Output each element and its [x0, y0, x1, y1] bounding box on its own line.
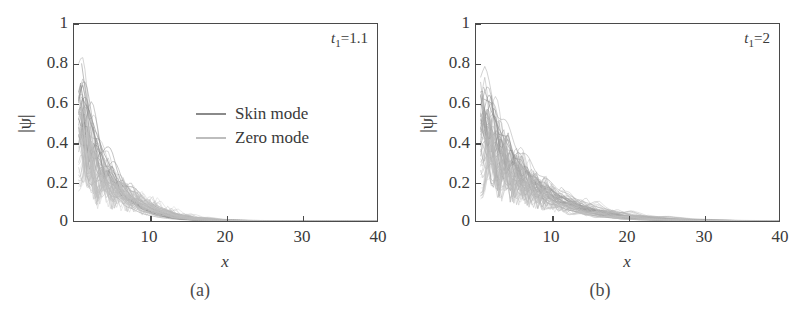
param-equals-b: =	[754, 30, 762, 46]
legend-item-zero-mode: Zero mode	[196, 126, 309, 150]
plot-area-a: t1=1.1 Skin mode Zero mode	[73, 23, 378, 222]
figure-container: t1=1.1 Skin mode Zero mode 1 0.8 0.6 0.4…	[0, 0, 801, 313]
xtick-label-a-30: 30	[282, 228, 322, 245]
ytick-a-0.6	[74, 104, 79, 105]
xtick-label-b-30: 30	[684, 228, 724, 245]
ytick-b-0.8	[476, 64, 481, 65]
param-value-b: 2	[763, 30, 771, 46]
ytick-label-b-0: 0	[428, 212, 470, 229]
xtick-label-b-10: 10	[531, 228, 571, 245]
curve-bundle-b	[476, 24, 779, 221]
y-axis-title-a: |ψ|	[15, 94, 36, 154]
ytick-a-0.4	[74, 143, 79, 144]
xtick-label-b-20: 20	[607, 228, 647, 245]
y-axis-title-b: |ψ|	[417, 94, 438, 154]
ytick-b-0.4	[476, 143, 481, 144]
ytick-a-0.8	[74, 64, 79, 65]
ytick-label-a-0.2: 0.2	[26, 174, 68, 191]
panel-b: t1=2 1 0.8 0.6 0.4 0.2 0 10 20 30 40 x |…	[400, 0, 800, 313]
x-axis-title-a: x	[205, 252, 245, 272]
ytick-label-a-1: 1	[26, 14, 68, 31]
xtick-label-b-40: 40	[760, 228, 800, 245]
panel-a: t1=1.1 Skin mode Zero mode 1 0.8 0.6 0.4…	[0, 0, 400, 313]
panel-caption-b: (b)	[400, 280, 800, 301]
legend-item-skin-mode: Skin mode	[196, 102, 309, 126]
ytick-label-b-0.8: 0.8	[428, 54, 470, 71]
legend-swatch-skin-mode	[196, 113, 226, 115]
ytick-label-b-0.2: 0.2	[428, 174, 470, 191]
xtick-a-10	[150, 216, 151, 221]
xtick-label-a-10: 10	[129, 228, 169, 245]
legend-label-skin-mode: Skin mode	[235, 104, 308, 124]
ytick-b-0.2	[476, 183, 481, 184]
xtick-b-10	[552, 216, 553, 221]
ytick-a-0.2	[74, 183, 79, 184]
x-axis-title-b: x	[607, 252, 647, 272]
parameter-annotation-a: t1=1.1	[331, 30, 368, 49]
legend-a: Skin mode Zero mode	[196, 102, 309, 150]
param-equals-a: =	[341, 30, 349, 46]
xtick-a-20	[227, 216, 228, 221]
parameter-annotation-b: t1=2	[744, 30, 770, 49]
plot-area-b: t1=2	[475, 23, 780, 222]
ytick-label-a-0: 0	[26, 212, 68, 229]
xtick-label-a-20: 20	[205, 228, 245, 245]
panel-caption-a: (a)	[0, 280, 400, 301]
xtick-a-30	[303, 216, 304, 221]
legend-swatch-zero-mode	[196, 137, 226, 139]
legend-label-zero-mode: Zero mode	[235, 128, 309, 148]
xtick-b-20	[629, 216, 630, 221]
xtick-b-30	[705, 216, 706, 221]
xtick-label-a-40: 40	[358, 228, 398, 245]
ytick-b-1	[476, 24, 481, 25]
param-value-a: 1.1	[349, 30, 368, 46]
ytick-b-0.6	[476, 104, 481, 105]
ytick-label-a-0.8: 0.8	[26, 54, 68, 71]
ytick-label-b-1: 1	[428, 14, 470, 31]
ytick-a-1	[74, 24, 79, 25]
